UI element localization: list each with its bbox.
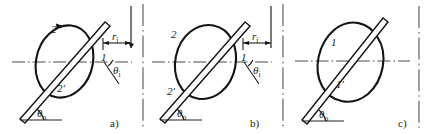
panel-b-radius-arrow-left xyxy=(243,41,249,45)
panel-c-label-curve-outer: 1 xyxy=(331,36,337,48)
panel-b-label-radius: ri xyxy=(252,30,258,45)
panel-b-radius-arrow-right xyxy=(265,41,271,45)
panel-c-bar-body xyxy=(302,18,388,124)
panel-b-label-curve-outer: 2 xyxy=(171,28,177,40)
panel-a-radius-arrow-left xyxy=(103,41,109,45)
diagram-canvas: 2 2' 1 ri θi θo a) 2 xyxy=(0,0,437,134)
panel-a-panel-label: a) xyxy=(110,117,119,130)
panel-a-bar-body xyxy=(20,22,110,123)
panel-a-label-radius: ri xyxy=(112,30,118,45)
panel-a-label-curve-outer: 2 xyxy=(51,23,57,35)
panel-a-label-angle-base: θo xyxy=(37,107,46,122)
panel-a-label-intersection: 1 xyxy=(101,51,107,63)
panel-c-panel-label: c) xyxy=(398,117,407,130)
panel-b-label-curve-inner: 2' xyxy=(167,85,176,97)
panel-a: 2 2' 1 ri θi θo a) xyxy=(12,4,143,130)
panel-c-label-angle-base: θo xyxy=(319,108,328,123)
panel-c: 1 1' θo c) xyxy=(295,6,419,130)
panel-a-label-curve-inner: 2' xyxy=(57,82,66,94)
panel-c-label-curve-inner: 1' xyxy=(336,78,345,90)
figure-three-panel-diagram: 2 2' 1 ri θi θo a) 2 xyxy=(0,0,437,134)
panel-a-inclined-bar xyxy=(20,22,110,123)
panel-b-panel-label: b) xyxy=(250,117,260,130)
panel-b-label-angle-base: θo xyxy=(177,107,186,122)
panel-b-label-intersection: 1 xyxy=(241,51,247,63)
panel-c-inclined-bar xyxy=(302,18,388,124)
panel-b: 2 2' 1 ri θi θo b) xyxy=(152,4,283,130)
